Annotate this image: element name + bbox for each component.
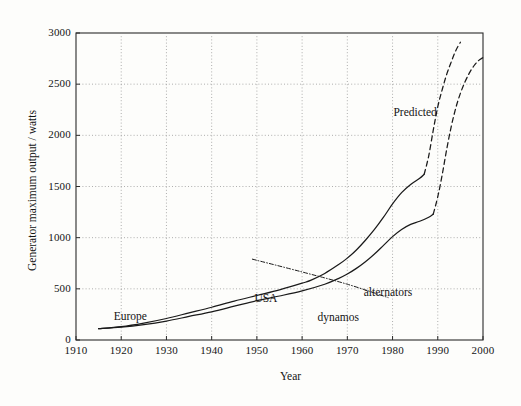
- series-line-dynamos: [99, 214, 434, 329]
- y-tick-label: 3000: [48, 26, 71, 38]
- y-tick-label: 1000: [48, 231, 71, 243]
- x-tick-label: 2000: [458, 344, 508, 356]
- x-tick-label: 1990: [413, 344, 463, 356]
- y-tick-label: 500: [54, 282, 71, 294]
- x-axis-title: Year: [30, 370, 521, 382]
- y-tick-label: 1500: [48, 180, 71, 192]
- series-paths: [99, 42, 483, 329]
- y-tick-label: 2000: [48, 128, 71, 140]
- annotation-dynamos: dynamos: [318, 311, 360, 323]
- annotation-europe: Europe: [114, 310, 147, 322]
- x-tick-label: 1950: [232, 344, 282, 356]
- annotation-alternators: alternators: [364, 286, 413, 298]
- x-tick-label: 1960: [277, 344, 327, 356]
- x-tick-label: 1910: [51, 344, 101, 356]
- annotation-predicted: Predicted: [393, 106, 436, 118]
- x-tick-label: 1970: [322, 344, 372, 356]
- y-tick-label: 2500: [48, 77, 71, 89]
- y-axis-title: Generator maximum output / watts: [26, 110, 38, 271]
- x-tick-label: 1920: [96, 344, 146, 356]
- chart-figure: 050010001500200025003000 191019201930194…: [0, 0, 521, 406]
- x-tick-label: 1940: [187, 344, 237, 356]
- series-line-dynamos-predicted: [433, 58, 483, 215]
- x-tick-label: 1930: [141, 344, 191, 356]
- annotation-usa: USA: [254, 292, 277, 304]
- x-tick-label: 1980: [368, 344, 418, 356]
- series-line-alternators: [99, 174, 425, 329]
- gridlines: [76, 33, 483, 340]
